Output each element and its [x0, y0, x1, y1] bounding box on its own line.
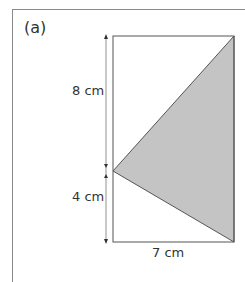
shaded-triangle: [113, 36, 234, 242]
width-label: 7 cm: [152, 245, 184, 260]
lower-height-label: 4 cm: [72, 189, 104, 204]
arrow-down-icon: [104, 239, 108, 244]
upper-height-label: 8 cm: [72, 83, 104, 98]
geometry-figure: [0, 0, 245, 282]
arrow-up-icon: [104, 34, 108, 39]
arrow-up-icon: [104, 174, 108, 178]
arrow-down-icon: [104, 164, 108, 168]
